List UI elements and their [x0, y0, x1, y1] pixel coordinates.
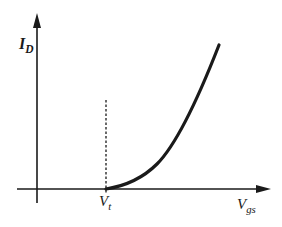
y-axis-label-subscript: D	[25, 43, 33, 55]
threshold-label-symbol: V	[99, 193, 108, 209]
y-axis-arrowhead-icon	[33, 13, 41, 28]
threshold-label-subscript: t	[108, 200, 111, 212]
x-axis-label-symbol: V	[237, 196, 246, 212]
transfer-characteristic-diagram	[0, 0, 282, 227]
x-axis-label: Vgs	[237, 197, 256, 212]
x-axis-arrowhead-icon	[256, 185, 271, 193]
y-axis-label: ID	[19, 36, 34, 52]
threshold-label: Vt	[99, 194, 111, 209]
id-vgs-curve	[106, 45, 219, 189]
x-axis-label-subscript: gs	[246, 203, 256, 215]
